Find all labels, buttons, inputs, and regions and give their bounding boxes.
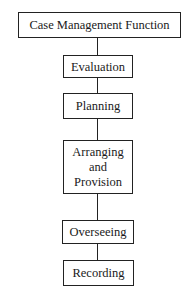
node-arranging-and-provision: Arranging and Provision bbox=[63, 140, 133, 194]
node-recording: Recording bbox=[63, 260, 134, 286]
node-label-line: Arranging bbox=[72, 145, 123, 160]
node-label: Case Management Function bbox=[29, 18, 169, 32]
node-planning: Planning bbox=[63, 93, 133, 119]
connector-line bbox=[97, 194, 98, 220]
connector-line bbox=[97, 244, 98, 260]
root-node-case-management-function: Case Management Function bbox=[18, 12, 181, 38]
connector-line bbox=[97, 38, 98, 55]
node-label: Planning bbox=[76, 99, 120, 113]
node-label: Evaluation bbox=[71, 60, 125, 74]
node-label-line: and bbox=[89, 160, 107, 175]
node-label: Overseeing bbox=[70, 225, 127, 239]
node-label-line: Provision bbox=[74, 175, 122, 190]
node-overseeing: Overseeing bbox=[62, 220, 134, 244]
node-evaluation: Evaluation bbox=[63, 55, 133, 78]
node-label: Recording bbox=[72, 266, 124, 280]
connector-line bbox=[97, 78, 98, 93]
connector-line bbox=[97, 119, 98, 140]
